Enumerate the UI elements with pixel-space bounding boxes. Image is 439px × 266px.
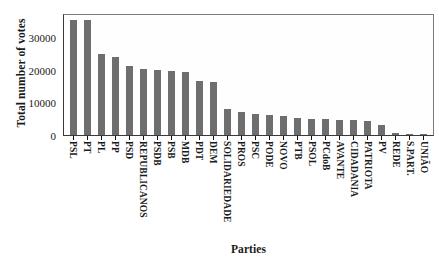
x-label-slot: PROS (234, 141, 248, 221)
x-tick-label: PV (377, 141, 387, 154)
x-label-slot: PODE (262, 141, 276, 221)
bar-slot (81, 15, 95, 135)
x-label-slot: PATRIOTA (361, 141, 375, 221)
bar (252, 114, 259, 135)
x-tick-mark (143, 136, 144, 140)
x-tick-label: PSDB (152, 141, 162, 166)
x-tick-mark (199, 136, 200, 140)
bar-slot (193, 15, 207, 135)
bar-series (64, 15, 433, 135)
x-tick-mark (157, 136, 158, 140)
x-tick-mark (283, 136, 284, 140)
bar (126, 66, 133, 135)
y-axis-tick-labels: 1000020000300000 (22, 0, 56, 266)
x-label-slot: UNIÃO (417, 141, 431, 221)
bar (364, 121, 371, 135)
bar (280, 116, 287, 135)
x-label-slot: REDE (389, 141, 403, 221)
bar (224, 109, 231, 135)
x-tick-label: NOVO (278, 141, 288, 170)
bar (238, 112, 245, 135)
bar-slot (109, 15, 123, 135)
bar (70, 20, 77, 135)
x-tick-label: AVANTE (335, 141, 345, 179)
x-tick-mark (423, 136, 424, 140)
x-tick-label: PROS (236, 141, 246, 167)
bar (420, 134, 427, 135)
x-tick-label: DEM (208, 141, 218, 163)
x-label-slot: PDT (192, 141, 206, 221)
x-tick-mark (171, 136, 172, 140)
y-tick-label: 10000 (22, 97, 56, 109)
x-label-slot: SOLIDARIEDADE (220, 141, 234, 221)
x-tick-mark (311, 136, 312, 140)
bar (154, 70, 161, 135)
bar-slot (332, 15, 346, 135)
x-tick-mark (395, 136, 396, 140)
x-tick-label: S.PART. (405, 141, 415, 176)
y-tick-label: 20000 (22, 65, 56, 77)
x-label-slot: PSDB (150, 141, 164, 221)
bar (84, 20, 91, 135)
bar-slot (291, 15, 305, 135)
bar (294, 118, 301, 135)
x-label-slot: MDB (178, 141, 192, 221)
x-tick-mark (325, 136, 326, 140)
bar (210, 82, 217, 135)
x-tick-label: PSD (124, 141, 134, 159)
bar (378, 125, 385, 135)
bar-slot (123, 15, 137, 135)
x-label-slot: AVANTE (333, 141, 347, 221)
x-label-slot: PL (94, 141, 108, 221)
x-tick-mark (339, 136, 340, 140)
x-tick-mark (227, 136, 228, 140)
bar-slot (207, 15, 221, 135)
bar-slot (277, 15, 291, 135)
x-tick-label: PP (110, 141, 120, 153)
bar (98, 54, 105, 135)
bar (140, 69, 147, 135)
bar-slot (165, 15, 179, 135)
x-label-slot: S.PART. (403, 141, 417, 221)
x-tick-mark (353, 136, 354, 140)
x-tick-mark (213, 136, 214, 140)
x-tick-label: CIDADANIA (349, 141, 359, 197)
bar-slot (263, 15, 277, 135)
x-axis-title: Parties (63, 243, 434, 255)
bar (336, 120, 343, 135)
bar-slot (137, 15, 151, 135)
x-tick-label: UNIÃO (419, 141, 429, 173)
x-label-slot: PSD (122, 141, 136, 221)
x-label-slot: PSL (66, 141, 80, 221)
bar (196, 81, 203, 135)
x-tick-label: REPUBLICANOS (138, 141, 148, 218)
x-tick-mark (255, 136, 256, 140)
x-tick-mark (73, 136, 74, 140)
bar (350, 120, 357, 135)
y-tick-label-zero: 0 (22, 130, 56, 142)
x-label-slot: CIDADANIA (347, 141, 361, 221)
x-tick-label: SOLIDARIEDADE (222, 141, 232, 223)
x-tick-mark (115, 136, 116, 140)
x-label-slot: PSOL (305, 141, 319, 221)
bar-slot (95, 15, 109, 135)
x-tick-label: PDT (194, 141, 204, 160)
bar-slot (235, 15, 249, 135)
bar-slot (221, 15, 235, 135)
x-tick-mark (129, 136, 130, 140)
x-tick-label: PSOL (307, 141, 317, 166)
x-axis-tick-labels: PSLPTPLPPPSDREPUBLICANOSPSDBPSBMDBPDTDEM… (63, 141, 434, 221)
x-label-slot: PT (80, 141, 94, 221)
bar-slot (346, 15, 360, 135)
x-label-slot: PSC (248, 141, 262, 221)
bar-slot (304, 15, 318, 135)
x-tick-label: PSC (250, 141, 260, 159)
bar-chart: Total number of votes 1000020000300000 P… (0, 0, 439, 266)
bar (112, 57, 119, 135)
bar (392, 133, 399, 135)
x-label-slot: REPUBLICANOS (136, 141, 150, 221)
x-label-slot: NOVO (276, 141, 290, 221)
bar-slot (67, 15, 81, 135)
x-tick-label: PSL (68, 141, 78, 159)
x-label-slot: PP (108, 141, 122, 221)
